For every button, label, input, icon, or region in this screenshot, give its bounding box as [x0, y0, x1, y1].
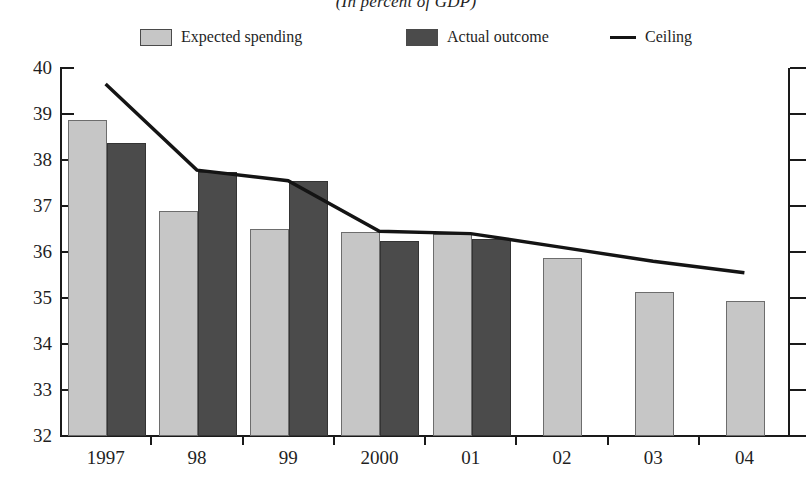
y-axis-label-32: 32 [8, 426, 52, 445]
y-axis-label-36: 36 [8, 242, 52, 261]
bar-expected-02 [543, 258, 582, 436]
chart-title: (In percent of GDP) [0, 0, 812, 12]
legend-swatch-actual-outcome [406, 29, 438, 46]
y-axis-label-38: 38 [8, 150, 52, 169]
x-axis-label-99: 99 [243, 448, 334, 467]
legend-label-expected-spending: Expected spending [181, 29, 302, 45]
x-tick-2 [242, 436, 244, 445]
x-axis-label-02: 02 [516, 448, 607, 467]
legend-line-ceiling [610, 36, 636, 39]
x-axis-label-01: 01 [425, 448, 516, 467]
y-axis-label-39: 39 [8, 104, 52, 123]
x-tick-5 [515, 436, 517, 445]
bar-group [60, 68, 790, 436]
legend-label-actual-outcome: Actual outcome [447, 29, 549, 45]
x-axis-label-04: 04 [699, 448, 790, 467]
y-axis-label-40: 40 [8, 58, 52, 77]
y-tick-right-35 [790, 297, 806, 299]
legend-item-expected-spending: Expected spending [140, 24, 302, 50]
y-tick-right-34 [790, 343, 806, 345]
bar-expected-99 [250, 229, 289, 436]
legend-swatch-expected-spending [140, 29, 172, 46]
bar-actual-01 [472, 239, 511, 437]
x-tick-1 [150, 436, 152, 445]
bar-actual-2000 [380, 241, 419, 436]
bar-expected-01 [433, 234, 472, 436]
x-tick-6 [607, 436, 609, 445]
y-axis-label-33: 33 [8, 380, 52, 399]
x-tick-7 [698, 436, 700, 445]
y-tick-right-38 [790, 159, 806, 161]
x-axis-label-98: 98 [151, 448, 242, 467]
y-tick-right-32 [790, 435, 806, 437]
bar-actual-99 [289, 181, 328, 436]
bar-actual-1997 [107, 143, 146, 436]
legend-label-ceiling: Ceiling [645, 29, 692, 45]
bar-expected-1997 [68, 120, 107, 436]
y-tick-right-39 [790, 113, 806, 115]
legend-item-ceiling: Ceiling [610, 24, 692, 50]
y-axis-label-34: 34 [8, 334, 52, 353]
x-tick-3 [333, 436, 335, 445]
bar-expected-2000 [341, 232, 380, 436]
y-tick-right-40 [790, 67, 806, 69]
y-axis-label-37: 37 [8, 196, 52, 215]
y-tick-right-33 [790, 389, 806, 391]
bar-actual-98 [198, 172, 237, 436]
y-tick-right-37 [790, 205, 806, 207]
bar-expected-98 [159, 211, 198, 436]
chart-legend: Expected spending Actual outcome Ceiling [0, 24, 812, 50]
bar-expected-04 [726, 301, 765, 436]
x-axis-label-2000: 2000 [334, 448, 425, 467]
y-tick-right-36 [790, 251, 806, 253]
plot-area [60, 68, 790, 436]
y-axis-label-35: 35 [8, 288, 52, 307]
x-axis-label-1997: 1997 [60, 448, 151, 467]
x-tick-4 [424, 436, 426, 445]
bar-expected-03 [635, 292, 674, 436]
x-axis-label-03: 03 [608, 448, 699, 467]
legend-item-actual-outcome: Actual outcome [406, 24, 549, 50]
